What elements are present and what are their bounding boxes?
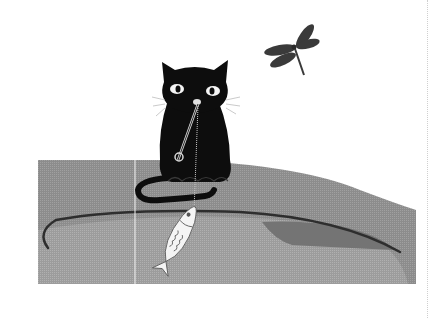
cat bbox=[152, 60, 240, 182]
dragonfly bbox=[263, 22, 320, 75]
illustration: Illustration of a black cat sitting on t… bbox=[0, 0, 434, 318]
page-edge-divider bbox=[427, 0, 429, 318]
